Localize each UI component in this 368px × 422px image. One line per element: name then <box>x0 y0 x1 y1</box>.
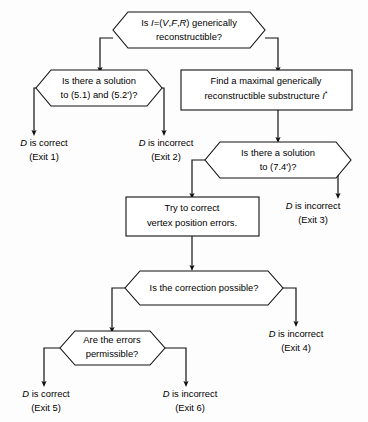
decision-node-solution-7-4[interactable]: Is there a solution to (7.4')? <box>205 142 351 178</box>
decision-2-line1: Is there a solution <box>62 75 136 86</box>
decision-1-line1: Is I=(V,F,R) generically <box>141 17 237 28</box>
terminal-3-exit-label: (Exit 3) <box>298 214 328 225</box>
terminal-3-verdict: D is incorrect <box>286 200 341 211</box>
process-1-line2: reconstructible substructure I* <box>204 90 327 102</box>
decision-5-line2: permissible? <box>86 348 139 359</box>
flowchart-canvas: Is I=(V,F,R) generically reconstructible… <box>0 0 368 422</box>
process-node-correct-vertex-errors[interactable]: Try to correct vertex position errors. <box>126 197 259 236</box>
connector-d4-to-exit4 <box>283 288 296 324</box>
connector-d3-to-p2 <box>192 160 205 196</box>
decision-1-line2: reconstructible? <box>156 31 222 42</box>
process-2-line2: vertex position errors. <box>147 217 237 228</box>
connector-d5-to-exit6 <box>165 348 186 384</box>
terminal-exit-3: D is incorrect (Exit 3) <box>286 200 341 225</box>
decision-node-errors-permissible[interactable]: Are the errors permissible? <box>60 331 165 365</box>
decision-2-line2: to (5.1) and (5.2')? <box>61 89 138 100</box>
process-1-line1: Find a maximal generically <box>211 75 322 86</box>
terminal-exit-1: D is correct (Exit 1) <box>20 137 68 162</box>
terminal-exit-5: D is correct (Exit 5) <box>22 388 70 413</box>
terminal-5-exit-label: (Exit 5) <box>31 402 61 413</box>
connector-d5-to-exit5 <box>44 348 60 384</box>
terminal-5-verdict: D is correct <box>22 388 70 399</box>
connector-d2-left-exit1 <box>34 88 36 133</box>
terminal-exit-6: D is incorrect (Exit 6) <box>163 388 218 413</box>
connector-d1-to-p1 <box>265 38 278 70</box>
decision-3-line2: to (7.4')? <box>260 161 297 172</box>
terminal-6-verdict: D is incorrect <box>163 388 218 399</box>
decision-3-line1: Is there a solution <box>241 147 315 158</box>
decision-5-line1: Are the errors <box>83 334 141 345</box>
terminal-exit-2: D is incorrect (Exit 2) <box>139 137 194 162</box>
terminal-1-exit-label: (Exit 1) <box>29 151 59 162</box>
decision-4-line1: Is the correction possible? <box>150 282 259 293</box>
process-2-line1: Try to correct <box>165 202 220 213</box>
connector-d4-to-d5 <box>112 288 125 330</box>
terminal-exit-4: D is incorrect (Exit 4) <box>269 328 324 353</box>
process-node-find-maximal-substructure[interactable]: Find a maximal generically reconstructib… <box>181 70 352 110</box>
decision-node-generically-reconstructible[interactable]: Is I=(V,F,R) generically reconstructible… <box>113 12 265 48</box>
decision-node-correction-possible[interactable]: Is the correction possible? <box>125 271 283 305</box>
terminal-4-exit-label: (Exit 4) <box>281 342 311 353</box>
connector-d1-to-d2 <box>100 38 113 70</box>
terminal-2-verdict: D is incorrect <box>139 137 194 148</box>
connector-d2-right-exit2 <box>162 88 164 133</box>
terminal-2-exit-label: (Exit 2) <box>151 151 181 162</box>
terminal-4-verdict: D is incorrect <box>269 328 324 339</box>
terminal-1-verdict: D is correct <box>20 137 68 148</box>
flowchart-svg: Is I=(V,F,R) generically reconstructible… <box>0 0 368 422</box>
terminal-6-exit-label: (Exit 6) <box>175 402 205 413</box>
decision-node-solution-5-1-5-2[interactable]: Is there a solution to (5.1) and (5.2')? <box>36 70 162 106</box>
